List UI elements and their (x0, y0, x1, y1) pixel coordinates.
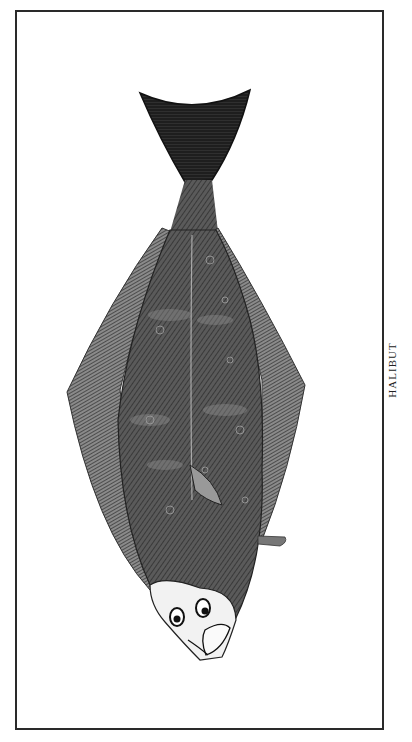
tail-fin (140, 90, 250, 182)
tail-stalk (170, 180, 218, 232)
plate-caption: HALIBUT (386, 342, 398, 397)
halibut-illustration (0, 0, 412, 742)
ventral-fin (258, 536, 286, 546)
